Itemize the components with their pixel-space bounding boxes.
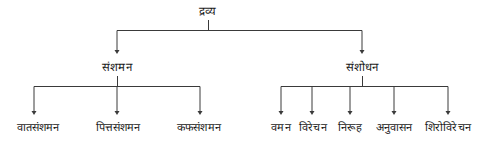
node-kaphasamshamana: कफसंशमन [177,122,221,133]
node-virechana: विरेचन [299,122,326,133]
node-samshamana: संशमन [102,62,131,74]
dravya-classification-diagram: द्रव्य संशमन संशोधन वातसंशमन पित्तसंशमन … [0,0,483,144]
node-shirovirechana: शिरोविरेचन [425,122,471,133]
node-pittasamshamana: पित्तसंशमन [96,122,141,133]
node-vamana: वमन [271,122,290,133]
node-anuvasana: अनुवासन [376,122,413,133]
node-vatasamshamana: वातसंशमन [17,122,60,133]
node-niruha: निरूह [338,122,362,133]
node-root-dravya: द्रव्य [199,6,216,18]
node-samshodhana: संशोधन [346,62,378,74]
